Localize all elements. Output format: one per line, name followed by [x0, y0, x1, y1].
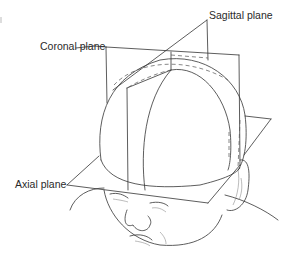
sagittal-plane-label: Sagittal plane	[209, 9, 273, 21]
coronal-plane-label: Coronal plane	[40, 40, 105, 52]
axial-plane	[67, 116, 271, 203]
coronal-plane	[94, 46, 240, 165]
sagittal-plane	[113, 20, 208, 190]
planes-diagram: Sagittal plane Coronal plane Axial plane	[0, 0, 291, 267]
skull-outline	[100, 59, 246, 190]
axial-plane-label: Axial plane	[15, 178, 66, 190]
